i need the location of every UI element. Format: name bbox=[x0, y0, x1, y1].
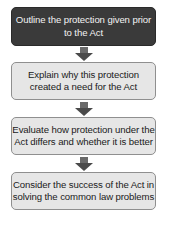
step-box-3: Evaluate how protection under the Act di… bbox=[11, 117, 156, 155]
down-arrow-icon bbox=[74, 47, 94, 61]
step-label: Explain why this protection created a ne… bbox=[12, 69, 155, 94]
step-label: Evaluate how protection under the Act di… bbox=[12, 124, 155, 149]
step-label: Outline the protection given prior to th… bbox=[12, 14, 155, 39]
down-arrow-icon bbox=[74, 102, 94, 116]
step-label: Consider the success of the Act in solvi… bbox=[12, 179, 155, 204]
step-box-4: Consider the success of the Act in solvi… bbox=[11, 172, 156, 210]
step-box-2: Explain why this protection created a ne… bbox=[11, 62, 156, 100]
down-arrow-icon bbox=[74, 157, 94, 171]
step-box-1: Outline the protection given prior to th… bbox=[11, 7, 156, 46]
